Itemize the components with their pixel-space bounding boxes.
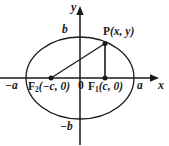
point-p-name: P <box>103 25 110 37</box>
figure-canvas <box>0 0 169 146</box>
focus-left-subscript: 2 <box>35 85 39 94</box>
point-p-marker <box>103 41 108 46</box>
focus-right-subscript: 1 <box>95 85 99 94</box>
focus-left-coords: (−c, 0) <box>39 80 70 92</box>
focus-left-name: F <box>28 80 35 92</box>
b-top-label: b <box>62 24 68 36</box>
y-axis-label: y <box>71 1 76 13</box>
a-right-label: a <box>137 80 143 92</box>
point-p-coords: (x, y) <box>110 25 134 37</box>
point-p-label: P(x, y) <box>103 26 134 38</box>
ellipse-foci-figure: y x b −b −a a 0 P(x, y) F2(−c, 0) F1(c, … <box>0 0 169 146</box>
focus-right-coords: (c, 0) <box>99 80 123 92</box>
focus-right-label: F1(c, 0) <box>88 81 123 93</box>
origin-label: 0 <box>78 80 84 92</box>
b-bottom-label: −b <box>60 121 73 133</box>
y-axis-arrowhead <box>76 6 83 15</box>
x-axis-label: x <box>158 79 164 91</box>
a-left-label: −a <box>5 80 18 92</box>
focus-left-label: F2(−c, 0) <box>28 81 70 93</box>
focus-right-name: F <box>88 80 95 92</box>
segment-f2-to-p <box>51 44 105 79</box>
